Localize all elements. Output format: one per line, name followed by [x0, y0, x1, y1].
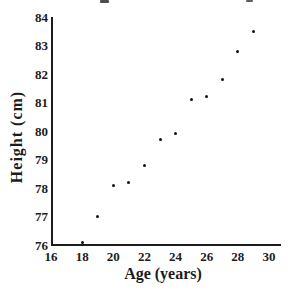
x-axis-title: Age (years) — [103, 265, 223, 283]
data-point — [190, 98, 193, 101]
y-tick-label: 83 — [16, 38, 48, 53]
y-tick-label: 82 — [16, 67, 48, 82]
data-point — [112, 184, 115, 187]
data-point — [252, 30, 255, 33]
x-tick-label: 30 — [254, 249, 284, 264]
y-axis-line — [51, 17, 53, 246]
y-tick-label: 77 — [16, 209, 48, 224]
x-tick-label: 16 — [36, 249, 66, 264]
data-point — [236, 50, 239, 53]
x-tick-label: 28 — [223, 249, 253, 264]
scatter-plot-figure: Height (cm) Age (years) 7677787980818283… — [0, 0, 291, 294]
y-tick-label: 78 — [16, 181, 48, 196]
x-axis-line — [51, 244, 281, 246]
data-point — [143, 164, 146, 167]
x-tick-label: 18 — [67, 249, 97, 264]
data-point — [221, 78, 224, 81]
data-point — [205, 95, 208, 98]
y-tick-label: 80 — [16, 124, 48, 139]
x-tick-label: 20 — [98, 249, 128, 264]
data-point — [174, 132, 177, 135]
data-point — [127, 181, 130, 184]
data-point — [159, 138, 162, 141]
x-tick-label: 26 — [192, 249, 222, 264]
data-point — [96, 215, 99, 218]
cropped-title-remnant-left — [100, 0, 109, 3]
x-tick-label: 22 — [129, 249, 159, 264]
data-point — [81, 241, 84, 244]
cropped-title-remnant-right — [246, 0, 253, 2]
y-tick-label: 84 — [16, 10, 48, 25]
y-tick-label: 79 — [16, 152, 48, 167]
x-tick-label: 24 — [161, 249, 191, 264]
y-tick-label: 81 — [16, 95, 48, 110]
